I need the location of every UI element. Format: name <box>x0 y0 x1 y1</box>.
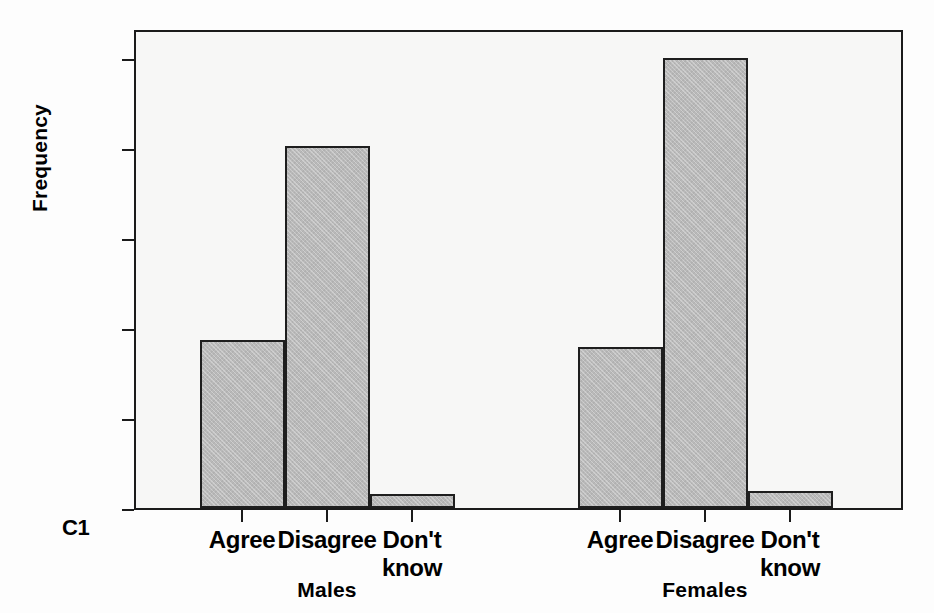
y-tick-mark-600 <box>122 239 134 241</box>
bar-chart: Frequency 1000 800 600 400 200 0 C1 <box>0 0 934 613</box>
bar-females-agree[interactable] <box>578 347 663 508</box>
x-tick-mark-females-dont-know <box>789 510 791 522</box>
group-label-females: Females <box>565 578 845 602</box>
group-label-males: Males <box>187 578 467 602</box>
bar-males-disagree[interactable] <box>285 146 370 508</box>
x-tick-mark-males-agree <box>241 510 243 522</box>
x-tick-label-males-dont-know: Don't know <box>337 526 487 582</box>
y-tick-mark-200 <box>122 419 134 421</box>
x-tick-label-females-dont-know: Don't know <box>715 526 865 582</box>
y-tick-mark-0 <box>122 509 134 511</box>
x-tick-label-line1: Don't <box>337 526 487 554</box>
y-tick-mark-1000 <box>122 59 134 61</box>
y-tick-mark-400 <box>122 329 134 331</box>
bar-males-dont-know[interactable] <box>370 494 455 508</box>
x-tick-mark-males-dont-know <box>411 510 413 522</box>
bar-females-dont-know[interactable] <box>748 491 833 508</box>
x-tick-mark-females-disagree <box>704 510 706 522</box>
x-tick-mark-males-disagree <box>326 510 328 522</box>
plot-inner <box>136 32 901 508</box>
bar-females-disagree[interactable] <box>663 58 748 508</box>
y-axis-title: Frequency <box>28 172 52 212</box>
x-axis-corner-label: C1 <box>62 515 90 541</box>
y-tick-mark-800 <box>122 149 134 151</box>
x-tick-mark-females-agree <box>619 510 621 522</box>
bar-males-agree[interactable] <box>200 340 285 508</box>
x-tick-label-line1: Don't <box>715 526 865 554</box>
plot-area <box>134 30 903 510</box>
